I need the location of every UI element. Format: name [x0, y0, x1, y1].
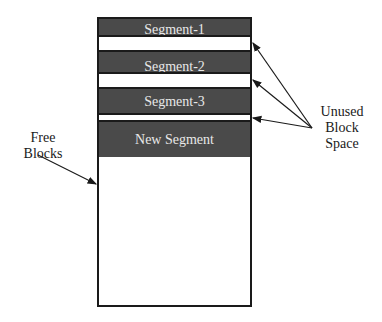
arrow-to-unused-2 [253, 80, 312, 128]
annotation-arrows [0, 0, 382, 322]
arrow-to-free-blocks [38, 155, 96, 184]
arrow-to-unused-3 [253, 118, 312, 128]
arrow-to-unused-1 [253, 43, 312, 128]
